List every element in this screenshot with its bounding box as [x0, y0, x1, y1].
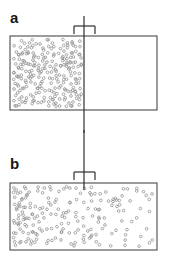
gas-particle [151, 193, 154, 196]
gas-particle [37, 101, 40, 104]
gas-particle [120, 220, 123, 223]
gas-particle [78, 103, 81, 106]
gas-particle [124, 239, 127, 242]
gas-particle [27, 232, 30, 235]
gas-particle [74, 231, 77, 234]
gas-particle [148, 241, 151, 244]
gas-particle [139, 207, 142, 210]
gas-particle [60, 222, 63, 225]
gas-particle [30, 81, 33, 84]
gas-particle [25, 241, 28, 244]
gas-particle [51, 77, 54, 80]
gas-particle [30, 69, 33, 72]
gas-particle [20, 67, 23, 70]
gas-particle [103, 217, 106, 220]
gas-particle [58, 190, 61, 193]
gas-particle [51, 239, 54, 242]
gas-particle [37, 56, 40, 59]
gas-particle [138, 245, 141, 248]
gas-particle [79, 192, 82, 195]
gas-particle [55, 63, 58, 66]
gas-particle [32, 96, 35, 99]
gas-particle [54, 87, 57, 90]
gas-particle [78, 77, 81, 80]
gas-particle [55, 74, 58, 77]
gas-particle [93, 192, 96, 195]
gas-particle [95, 240, 98, 243]
gas-particle [75, 211, 78, 214]
gas-particle [82, 201, 85, 204]
gas-particle [55, 213, 58, 216]
gas-particle [124, 233, 127, 236]
gas-particle [95, 233, 98, 236]
gas-particle [49, 185, 52, 188]
gas-particle [65, 105, 68, 108]
gas-particle [38, 91, 41, 94]
panel-a-gas-particles [12, 38, 82, 107]
gas-particle [31, 38, 34, 41]
gas-particle [27, 238, 30, 241]
gas-particle [79, 87, 82, 90]
gas-particle [29, 243, 32, 246]
gas-particle [78, 98, 81, 101]
gas-particle [62, 44, 65, 47]
gas-particle [62, 187, 65, 190]
gas-particle [82, 225, 85, 228]
gas-particle [44, 64, 47, 67]
gas-particle [55, 105, 58, 108]
gas-particle [34, 205, 37, 208]
gas-particle [24, 197, 27, 200]
gas-particle [16, 192, 19, 195]
gas-particle [70, 83, 73, 86]
gas-particle [86, 230, 89, 233]
gas-particle [76, 220, 79, 223]
gas-particle [21, 101, 24, 104]
gas-particle [29, 73, 32, 76]
gas-particle [43, 96, 46, 99]
gas-particle [54, 95, 57, 98]
gas-particle [47, 101, 50, 104]
gas-particle [57, 81, 60, 84]
gas-particle [14, 63, 17, 66]
gas-particle [75, 198, 78, 201]
gas-particle [14, 94, 17, 97]
gas-particle [25, 97, 28, 100]
gas-particle [83, 234, 86, 237]
gas-particle [130, 220, 133, 223]
gas-particle [46, 61, 49, 64]
gas-particle [50, 213, 53, 216]
gas-particle [35, 238, 38, 241]
gas-particle [111, 204, 114, 207]
gas-particle [66, 57, 69, 60]
gas-particle [70, 95, 73, 98]
gas-particle [32, 52, 35, 55]
gas-particle [62, 75, 65, 78]
gas-particle [43, 187, 46, 190]
gas-particle [33, 61, 36, 64]
gas-particle [58, 74, 61, 77]
gas-particle [41, 192, 44, 195]
gas-particle [74, 215, 77, 218]
gas-particle [50, 71, 53, 74]
gas-particle [15, 189, 18, 192]
gas-particle [51, 60, 54, 63]
gas-particle [63, 63, 66, 66]
gas-particle [151, 239, 154, 242]
gas-particle [59, 85, 62, 88]
gas-particle [50, 227, 53, 230]
gas-particle [42, 77, 45, 80]
gas-particle [13, 44, 16, 47]
gas-particle [126, 228, 129, 231]
gas-particle [20, 77, 23, 80]
gas-particle [20, 39, 23, 42]
gas-particle [148, 210, 151, 213]
gas-particle [43, 100, 46, 103]
gas-particle [24, 70, 27, 73]
gas-particle [94, 208, 97, 211]
gas-particle [107, 200, 110, 203]
gas-particle [26, 46, 29, 49]
gas-particle [58, 98, 61, 101]
gas-particle [44, 89, 47, 92]
gas-particle [36, 189, 39, 192]
gas-particle [19, 191, 22, 194]
